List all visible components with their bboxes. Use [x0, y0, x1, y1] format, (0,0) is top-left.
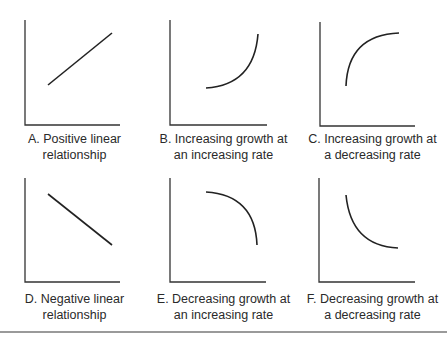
caption-c: C. Increasing growth at a decreasing rat…: [298, 131, 447, 163]
caption-e: E. Decreasing growth at an increasing ra…: [149, 291, 298, 323]
caption-d: D. Negative linear relationship: [0, 291, 149, 323]
caption-c-line2: a decreasing rate: [298, 147, 447, 163]
caption-e-line1: E. Decreasing growth at: [149, 291, 298, 307]
panel-f: F. Decreasing growth at a decreasing rat…: [298, 165, 447, 330]
bottom-divider: [0, 331, 447, 333]
concave-increasing-graph: [298, 0, 447, 130]
caption-f-line2: a decreasing rate: [298, 307, 447, 323]
panel-e: E. Decreasing growth at an increasing ra…: [149, 165, 298, 330]
caption-b-line1: B. Increasing growth at: [149, 131, 298, 147]
caption-a-line2: relationship: [0, 147, 149, 163]
panel-d: D. Negative linear relationship: [0, 165, 149, 330]
caption-f: F. Decreasing growth at a decreasing rat…: [298, 291, 447, 323]
panel-b: B. Increasing growth at an increasing ra…: [149, 0, 298, 165]
positive-linear-graph: [0, 0, 149, 130]
panel-a: A. Positive linear relationship: [0, 0, 149, 165]
caption-a: A. Positive linear relationship: [0, 131, 149, 163]
caption-c-line1: C. Increasing growth at: [298, 131, 447, 147]
negative-linear-graph: [0, 165, 149, 295]
caption-b-line2: an increasing rate: [149, 147, 298, 163]
concave-decreasing-graph: [149, 165, 298, 295]
caption-f-line1: F. Decreasing growth at: [298, 291, 447, 307]
caption-d-line2: relationship: [0, 307, 149, 323]
caption-d-line1: D. Negative linear: [0, 291, 149, 307]
caption-e-line2: an increasing rate: [149, 307, 298, 323]
convex-decreasing-graph: [298, 165, 447, 295]
panel-c: C. Increasing growth at a decreasing rat…: [298, 0, 447, 165]
caption-b: B. Increasing growth at an increasing ra…: [149, 131, 298, 163]
caption-a-line1: A. Positive linear: [0, 131, 149, 147]
convex-increasing-graph: [149, 0, 298, 130]
